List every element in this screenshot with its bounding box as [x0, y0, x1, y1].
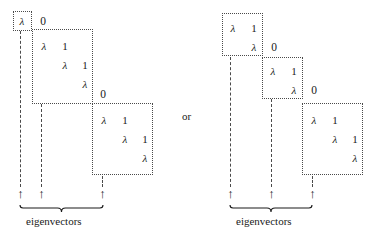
right-jordan-block-3x3-c-cell-3: 1 [348, 133, 362, 145]
left-jordan-block-3x3-cell-3: 1 [78, 59, 92, 71]
right-jordan-block-3x3-c-cell-4: λ [348, 152, 362, 164]
left-jordan-block-1x1-cell-0: λ [15, 15, 29, 27]
left-leader-line-1 [41, 104, 42, 187]
left-jordan-block-3x3-cell-0: λ [37, 40, 51, 52]
right-leader-line-1 [271, 99, 272, 187]
right-jordan-block-2x2-b-cell-0: λ [266, 65, 280, 77]
right-jordan-block-3x3-c-cell-0: λ [307, 114, 321, 126]
right-eigenvectors-label: eigenvectors [236, 215, 292, 228]
left-jordan-block-3x3-cell-1: 1 [58, 40, 72, 52]
right-jordan-block-2x2-b-cell-1: 1 [287, 65, 301, 77]
right-jordan-block-2x2-cell-0: λ [226, 22, 240, 34]
right-jordan-block-2x2-b-cell-2: λ [287, 84, 301, 96]
right-zero-0: 0 [267, 41, 281, 53]
left-jordan-block-3x3-b-cell-2: λ [118, 133, 132, 145]
right-leader-line-0 [230, 57, 231, 187]
right-jordan-block-2x2-cell-2: λ [247, 41, 261, 53]
right-up-arrow-icon-0: ↑ [226, 188, 235, 200]
left-up-arrow-icon-1: ↑ [37, 188, 46, 200]
right-up-arrow-icon-2: ↑ [308, 188, 317, 200]
right-underbrace [229, 205, 313, 214]
left-jordan-block-3x3-cell-4: λ [78, 78, 92, 90]
left-zero-1: 0 [96, 88, 110, 100]
left-leader-line-0 [20, 31, 21, 187]
left-up-arrow-icon-2: ↑ [98, 188, 107, 200]
or-connector-label: or [182, 110, 191, 123]
left-up-arrow-icon-0: ↑ [16, 188, 25, 200]
right-jordan-block-3x3-c-cell-1: 1 [328, 114, 342, 126]
left-eigenvectors-label: eigenvectors [26, 215, 82, 228]
left-zero-0: 0 [36, 15, 50, 27]
jordan-form-figure: λλ1λ1λλ1λ1λ00↑↑↑eigenvectorsλ1λλ1λλ1λ1λ0… [0, 0, 377, 243]
right-jordan-block-3x3-c-cell-2: λ [328, 133, 342, 145]
left-jordan-block-3x3-b-cell-3: 1 [138, 133, 152, 145]
right-up-arrow-icon-1: ↑ [267, 188, 276, 200]
left-jordan-block-3x3-b-cell-0: λ [97, 114, 111, 126]
right-zero-1: 0 [307, 84, 321, 96]
left-underbrace [19, 205, 104, 214]
left-jordan-block-3x3-cell-2: λ [58, 59, 72, 71]
right-jordan-block-2x2-cell-1: 1 [247, 22, 261, 34]
left-jordan-block-3x3-b-cell-4: λ [138, 152, 152, 164]
left-jordan-block-3x3-b-cell-1: 1 [118, 114, 132, 126]
